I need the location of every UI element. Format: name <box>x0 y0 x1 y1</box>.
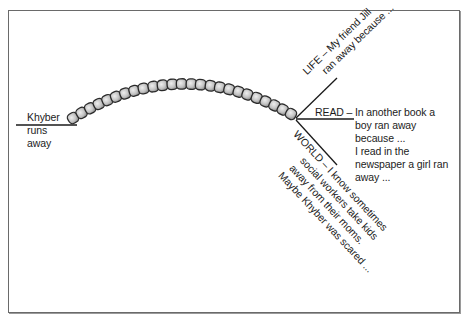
read-text-line: because ... <box>355 132 448 145</box>
bead <box>176 79 187 90</box>
read-branch-tag: READ – <box>315 106 352 119</box>
bead-path <box>66 79 298 125</box>
start-label-line: runs <box>27 124 60 137</box>
read-text-line: I read in the <box>355 145 448 158</box>
read-text-line: boy ran away <box>355 119 448 132</box>
start-label-line: Khyber <box>27 111 60 124</box>
read-text-line: away ... <box>355 171 448 184</box>
read-text-line: newspaper a girl ran <box>355 158 448 171</box>
start-event-label: Khyber runs away <box>27 111 60 150</box>
start-label-line: away <box>27 137 60 150</box>
read-text-line: In another book a <box>355 106 448 119</box>
read-branch-text: In another book a boy ran away because .… <box>355 106 448 184</box>
bead <box>195 79 206 90</box>
